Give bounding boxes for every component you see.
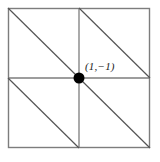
geometry-figure: (1,−1) <box>0 0 160 162</box>
figure-canvas <box>0 0 160 162</box>
center-point-label: (1,−1) <box>85 61 115 72</box>
diagonal-top-left <box>8 8 79 78</box>
diagonal-bottom-left <box>8 78 79 148</box>
center-point-marker <box>74 73 85 84</box>
diagonal-bottom-right <box>79 78 150 148</box>
